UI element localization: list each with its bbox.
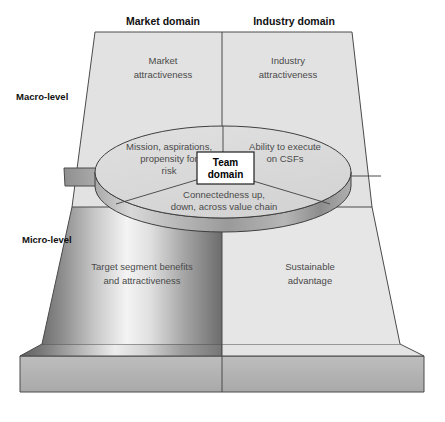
- sector-left-line1: Mission, aspirations,: [126, 141, 212, 152]
- level-labels: Macro-level Micro-level: [16, 91, 72, 245]
- macro-market-line1: Market: [148, 55, 177, 66]
- macro-industry-line1: Industry: [271, 55, 305, 66]
- macro-industry-line2: attractiveness: [259, 69, 318, 80]
- diagram-root: Team domain Mission, aspirations, propen…: [0, 0, 445, 422]
- base-slab-top-right: [222, 344, 424, 356]
- label-micro-level: Micro-level: [22, 234, 72, 245]
- team-domain-box[interactable]: Team domain: [197, 152, 254, 184]
- sector-bottom-line2: down, across value chain: [171, 201, 278, 212]
- header-market-domain: Market domain: [126, 15, 200, 27]
- micro-market-line1: Target segment benefits: [91, 261, 193, 272]
- strategy-trapezoid-diagram: Team domain Mission, aspirations, propen…: [0, 0, 445, 422]
- sector-right-line2: on CSFs: [267, 153, 304, 164]
- team-domain-line1: Team: [213, 157, 238, 168]
- micro-industry-line1: Sustainable: [285, 261, 335, 272]
- macro-market-line2: attractiveness: [134, 69, 193, 80]
- micro-industry-line2: advantage: [288, 275, 332, 286]
- sector-bottom-line1: Connectedness up,: [183, 189, 265, 200]
- micro-market-line2: and attractiveness: [103, 275, 180, 286]
- sector-left-line2: propensity for: [140, 153, 198, 164]
- team-domain-line2: domain: [208, 169, 244, 180]
- header-industry-domain: Industry domain: [253, 15, 335, 27]
- sector-left-line3: risk: [162, 165, 177, 176]
- label-macro-level: Macro-level: [16, 91, 68, 102]
- base-slab: [20, 344, 424, 392]
- base-slab-top-left: [20, 344, 222, 356]
- domain-headers: Market domain Industry domain: [126, 15, 335, 27]
- sector-right-line1: Ability to execute: [249, 141, 321, 152]
